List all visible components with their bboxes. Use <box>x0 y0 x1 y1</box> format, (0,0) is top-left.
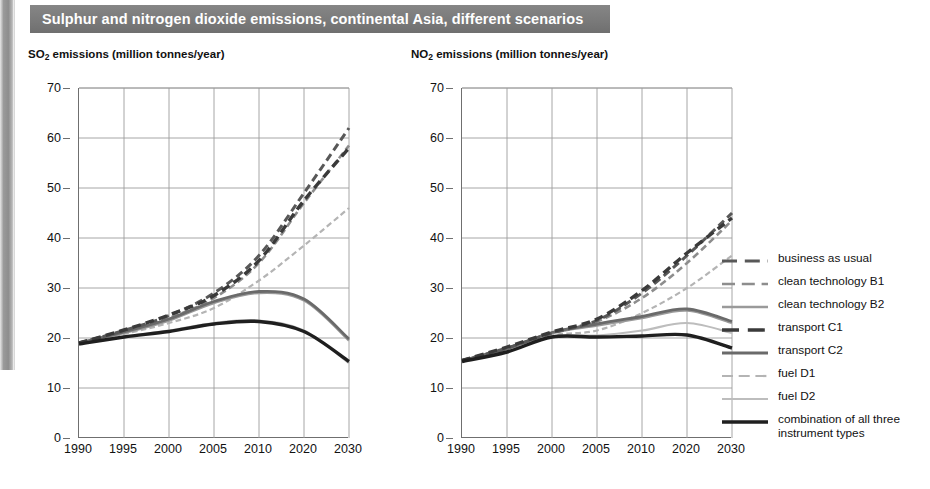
so2-y-tick-mark <box>63 238 70 239</box>
no2-x-tick-label: 1995 <box>492 443 520 456</box>
no2-gridlines <box>462 88 732 438</box>
no2-x-tick-label: 2000 <box>537 443 565 456</box>
chart-legend: business as usualclean technology B1clea… <box>722 252 927 443</box>
no2-x-tick-label: 2030 <box>717 443 745 456</box>
so2-x-tick-label: 2010 <box>244 443 272 456</box>
so2-plot-area <box>78 88 348 438</box>
no2-y-tick-label: 60 <box>430 132 444 145</box>
so2-y-tick-label: 50 <box>47 182 61 195</box>
so2-x-tick-label: 2000 <box>154 443 182 456</box>
legend-item-label: fuel D1 <box>768 367 815 381</box>
so2-x-axis: 1990199520002005201020202030 <box>78 443 378 463</box>
chart-title: Sulphur and nitrogen dioxide emissions, … <box>42 11 583 27</box>
so2-x-tick-label: 2020 <box>289 443 317 456</box>
no2-plot-area <box>461 88 731 438</box>
no2-panel-title: NO2 emissions (million tonnes/year) <box>411 48 608 60</box>
so2-y-tick-label: 0 <box>54 432 61 445</box>
so2-x-tick-label: 1995 <box>109 443 137 456</box>
no2-y-tick-label: 70 <box>430 82 444 95</box>
so2-panel-title: SO2 emissions (million tonnes/year) <box>28 48 224 60</box>
no2-y-tick-label: 30 <box>430 282 444 295</box>
no2-x-tick-label: 2005 <box>582 443 610 456</box>
no2-y-tick-mark <box>446 238 453 239</box>
so2-y-axis: 706050403020100 <box>26 88 70 438</box>
so2-y-tick-mark <box>63 388 70 389</box>
no2-y-axis: 706050403020100 <box>409 88 453 438</box>
no2-x-tick-label: 1990 <box>447 443 475 456</box>
no2-y-tick-mark <box>446 288 453 289</box>
no2-x-axis: 1990199520002005201020202030 <box>461 443 761 463</box>
so2-plot-svg <box>79 88 349 438</box>
so2-y-tick-label: 40 <box>47 232 61 245</box>
legend-item-label: clean technology B2 <box>768 298 884 312</box>
legend-line-swatch <box>722 324 768 336</box>
so2-chart-panel <box>78 88 348 438</box>
no2-plot-svg <box>462 88 732 438</box>
no2-y-tick-mark <box>446 338 453 339</box>
so2-y-tick-label: 30 <box>47 282 61 295</box>
legend-item[interactable]: transport C2 <box>722 344 927 367</box>
no2-y-tick-mark <box>446 138 453 139</box>
legend-item-label: business as usual <box>768 252 872 266</box>
legend-line-swatch <box>722 347 768 359</box>
legend-item-label: transport C2 <box>768 344 843 358</box>
legend-line-swatch <box>722 393 768 405</box>
so2-y-tick-mark <box>63 288 70 289</box>
so2-y-tick-mark <box>63 338 70 339</box>
legend-line-swatch <box>722 278 768 290</box>
so2-x-tick-label: 2005 <box>199 443 227 456</box>
page-edge-strip <box>0 0 15 370</box>
no2-y-tick-label: 50 <box>430 182 444 195</box>
so2-y-tick-label: 20 <box>47 332 61 345</box>
so2-x-tick-label: 2030 <box>334 443 362 456</box>
legend-item-label: combination of all three instrument type… <box>768 413 900 440</box>
legend-line-swatch <box>722 416 768 428</box>
so2-gridlines <box>79 88 349 438</box>
so2-y-tick-mark <box>63 438 70 439</box>
legend-line-swatch <box>722 255 768 267</box>
no2-y-tick-mark <box>446 388 453 389</box>
legend-item[interactable]: transport C1 <box>722 321 927 344</box>
no2-y-tick-label: 0 <box>437 432 444 445</box>
chart-title-banner: Sulphur and nitrogen dioxide emissions, … <box>30 5 610 33</box>
no2-y-tick-mark <box>446 188 453 189</box>
no2-x-tick-label: 2010 <box>627 443 655 456</box>
no2-y-tick-mark <box>446 438 453 439</box>
no2-y-tick-label: 40 <box>430 232 444 245</box>
legend-line-swatch <box>722 301 768 313</box>
legend-item-label: transport C1 <box>768 321 843 335</box>
legend-line-swatch <box>722 370 768 382</box>
legend-item[interactable]: fuel D2 <box>722 390 927 413</box>
legend-item[interactable]: clean technology B1 <box>722 275 927 298</box>
legend-item[interactable]: fuel D1 <box>722 367 927 390</box>
so2-x-tick-label: 1990 <box>64 443 92 456</box>
so2-y-tick-label: 60 <box>47 132 61 145</box>
legend-item-label: clean technology B1 <box>768 275 884 289</box>
no2-y-tick-label: 10 <box>430 382 444 395</box>
no2-x-tick-label: 2020 <box>672 443 700 456</box>
so2-y-tick-mark <box>63 88 70 89</box>
legend-item-label: fuel D2 <box>768 390 815 404</box>
no2-y-tick-label: 20 <box>430 332 444 345</box>
so2-y-tick-mark <box>63 188 70 189</box>
no2-chart-panel <box>461 88 731 438</box>
so2-y-tick-mark <box>63 138 70 139</box>
so2-y-tick-label: 10 <box>47 382 61 395</box>
legend-item[interactable]: business as usual <box>722 252 927 275</box>
legend-item[interactable]: combination of all three instrument type… <box>722 413 927 443</box>
no2-y-tick-mark <box>446 88 453 89</box>
legend-item[interactable]: clean technology B2 <box>722 298 927 321</box>
so2-y-tick-label: 70 <box>47 82 61 95</box>
